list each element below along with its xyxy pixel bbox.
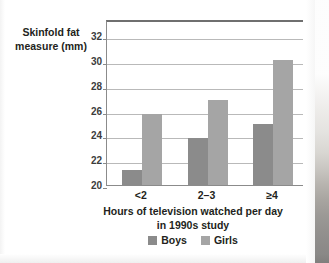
x-axis-title-line-2: in 1990s study xyxy=(82,219,304,233)
y-axis-tick xyxy=(103,163,107,164)
y-axis-tick-label: 26 xyxy=(80,106,102,117)
legend-label-boys: Boys xyxy=(161,234,187,246)
y-axis-tick xyxy=(103,64,107,65)
y-axis-tick-label: 32 xyxy=(80,31,102,42)
legend-item-girls: Girls xyxy=(201,234,238,246)
y-axis-tick-label: 28 xyxy=(80,81,102,92)
legend-swatch-boys xyxy=(148,236,157,245)
y-axis-tick-label: 30 xyxy=(80,56,102,67)
y-axis-tick xyxy=(103,138,107,139)
y-axis-tick-labels: 20222426283032 xyxy=(78,20,102,186)
adjacent-photo-strip xyxy=(315,0,329,263)
plot-area xyxy=(106,20,303,186)
y-axis-tick-label: 22 xyxy=(80,155,102,166)
y-axis-tick-label: 24 xyxy=(80,130,102,141)
x-axis-tick-label: ≥4 xyxy=(266,189,278,201)
bar-boys-0 xyxy=(122,170,142,185)
y-axis-tick xyxy=(103,39,107,40)
x-axis-tick-label: <2 xyxy=(135,189,147,201)
figure-page: Skinfold fat measure (mm) 20222426283032… xyxy=(0,0,329,263)
bar-boys-1 xyxy=(188,138,208,185)
gridline xyxy=(107,39,303,40)
y-axis-tick xyxy=(103,89,107,90)
y-axis-tick-label: 20 xyxy=(80,180,102,191)
x-axis-title: Hours of television watched per day in 1… xyxy=(82,205,304,232)
page-gutter xyxy=(306,0,315,263)
chart-legend: BoysGirls xyxy=(82,234,304,246)
bar-boys-2 xyxy=(253,124,273,185)
x-axis-title-line-1: Hours of television watched per day xyxy=(82,205,304,219)
bar-girls-0 xyxy=(142,114,162,185)
y-axis-tick xyxy=(103,114,107,115)
bar-chart-figure: Skinfold fat measure (mm) 20222426283032… xyxy=(0,0,303,258)
legend-label-girls: Girls xyxy=(214,234,238,246)
legend-swatch-girls xyxy=(201,236,210,245)
legend-item-boys: Boys xyxy=(148,234,187,246)
x-axis-tick-label: 2–3 xyxy=(198,189,216,201)
x-axis-tick-labels: <22–3≥4 xyxy=(106,189,303,205)
bar-girls-2 xyxy=(273,60,293,185)
bar-girls-1 xyxy=(208,100,228,185)
